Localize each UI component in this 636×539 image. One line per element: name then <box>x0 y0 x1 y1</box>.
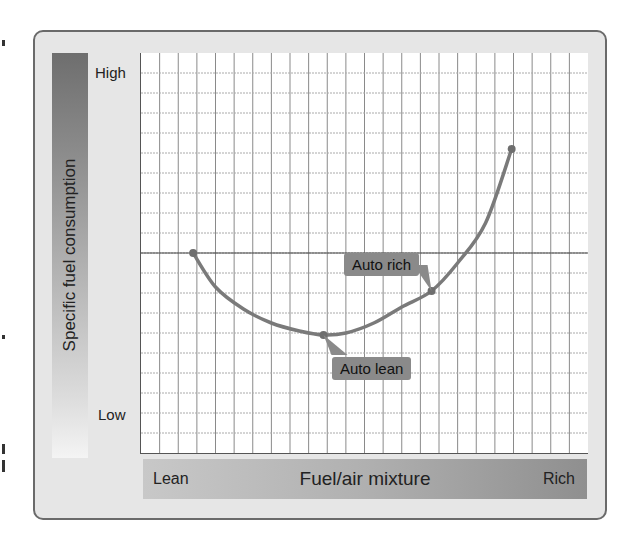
callout-auto-rich: Auto rich <box>344 253 419 276</box>
x-axis-title: Fuel/air mixture <box>143 468 587 490</box>
consumption-curve <box>193 149 511 335</box>
edge-mark <box>2 40 5 46</box>
y-tick-low: Low <box>98 406 126 423</box>
callout-auto-lean: Auto lean <box>332 357 411 380</box>
y-tick-high: High <box>95 64 126 81</box>
edge-mark <box>2 335 5 339</box>
x-axis-band: Lean Fuel/air mixture Rich <box>143 459 587 499</box>
edge-mark <box>2 444 5 454</box>
x-tick-rich: Rich <box>543 470 575 488</box>
edge-mark <box>2 460 5 472</box>
callout-pointers <box>324 265 432 355</box>
curve-points <box>189 145 515 339</box>
y-axis-title: Specific fuel consumption <box>60 159 80 352</box>
left-edge-marks <box>0 0 8 539</box>
